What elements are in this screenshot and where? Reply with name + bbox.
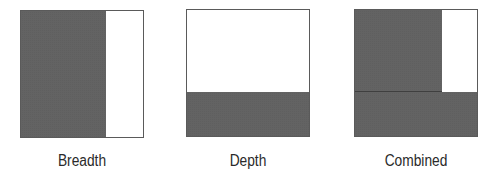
- breadth-filled-region: [21, 11, 106, 137]
- combined-box: [354, 9, 478, 137]
- combined-depth-region: [355, 92, 477, 137]
- depth-box: [186, 9, 310, 137]
- depth-label: Depth: [195, 152, 302, 170]
- breadth-label: Breadth: [29, 152, 136, 170]
- combined-label: Combined: [363, 152, 470, 170]
- depth-panel: Depth: [165, 0, 330, 183]
- breadth-box: [20, 10, 144, 138]
- breadth-panel: Breadth: [0, 0, 165, 183]
- depth-filled-region: [187, 92, 309, 137]
- combined-overlap-line: [355, 91, 442, 92]
- combined-panel: Combined: [330, 0, 497, 183]
